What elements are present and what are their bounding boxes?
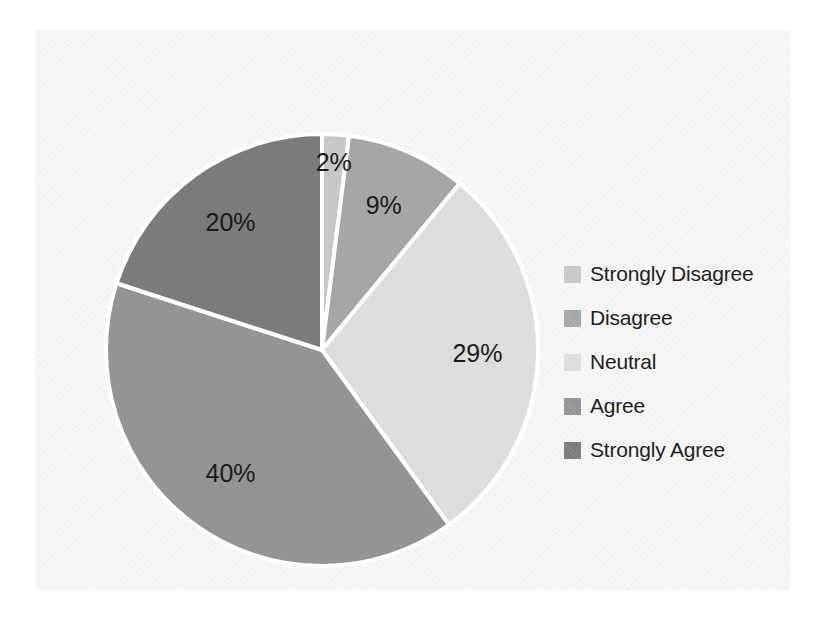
legend-item-neutral[interactable]: Neutral (564, 340, 774, 384)
legend-swatch-agree (564, 398, 581, 415)
legend-label: Strongly Agree (590, 438, 725, 462)
pie-chart-svg: 2%9%29%40%20% (104, 132, 540, 568)
pie-label-disagree: 9% (366, 191, 402, 219)
legend-item-strongly-disagree[interactable]: Strongly Disagree (564, 252, 774, 296)
pie-chart: 2%9%29%40%20% (104, 132, 540, 568)
legend-label: Disagree (590, 306, 672, 330)
legend-label: Neutral (590, 350, 656, 374)
legend-item-agree[interactable]: Agree (564, 384, 774, 428)
legend-label: Strongly Disagree (590, 262, 754, 286)
legend-swatch-strongly-disagree (564, 266, 581, 283)
pie-label-strongly-disagree: 2% (316, 148, 352, 176)
legend-swatch-disagree (564, 310, 581, 327)
pie-label-strongly-agree: 20% (206, 208, 256, 236)
pie-label-neutral: 29% (452, 339, 502, 367)
legend-item-disagree[interactable]: Disagree (564, 296, 774, 340)
pie-label-agree: 40% (206, 459, 256, 487)
chart-legend: Strongly DisagreeDisagreeNeutralAgreeStr… (564, 252, 774, 472)
legend-swatch-strongly-agree (564, 442, 581, 459)
legend-label: Agree (590, 394, 645, 418)
legend-swatch-neutral (564, 354, 581, 371)
legend-item-strongly-agree[interactable]: Strongly Agree (564, 428, 774, 472)
